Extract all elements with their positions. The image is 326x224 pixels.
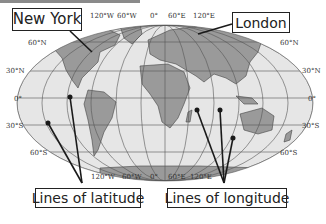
tick-top-60e: 60°E: [168, 12, 186, 20]
tick-bottom-60e: 60°E: [168, 173, 186, 181]
tick-bottom-0: 0°: [150, 173, 158, 181]
pointer-dot-latitude-2: [68, 95, 73, 100]
tick-bottom-120w: 120°W: [91, 173, 116, 181]
tick-left-60s: 60°S: [30, 149, 47, 157]
tick-left-0: 0°: [14, 95, 22, 103]
tick-bottom-60w: 60°W: [122, 173, 142, 181]
tick-right-30s: 30°S: [302, 122, 319, 130]
tick-top-0: 0°: [150, 12, 158, 20]
pointer-dot-longitude-1: [195, 108, 200, 113]
tick-left-30s: 30°S: [6, 122, 23, 130]
label-new-york: New York: [12, 8, 82, 31]
pointer-dot-longitude-3: [231, 136, 236, 141]
tick-top-120e: 120°E: [193, 12, 215, 20]
label-lines-of-longitude: Lines of longitude: [167, 188, 287, 208]
tick-right-60n: 60°N: [280, 39, 299, 47]
tick-right-30n: 30°N: [302, 67, 321, 75]
tick-left-30n: 30°N: [6, 67, 25, 75]
tick-bottom-120e: 120°E: [190, 173, 212, 181]
tick-right-60s: 60°S: [280, 149, 297, 157]
tick-right-0: 0°: [308, 95, 316, 103]
tick-top-60w: 60°W: [117, 12, 137, 20]
pointer-dot-longitude-2: [218, 108, 223, 113]
pointer-dot-latitude-1: [46, 121, 51, 126]
label-lines-of-latitude: Lines of latitude: [35, 188, 141, 208]
label-london: London: [232, 12, 290, 33]
tick-top-120w: 120°W: [90, 12, 115, 20]
tick-left-60n: 60°N: [28, 39, 47, 47]
